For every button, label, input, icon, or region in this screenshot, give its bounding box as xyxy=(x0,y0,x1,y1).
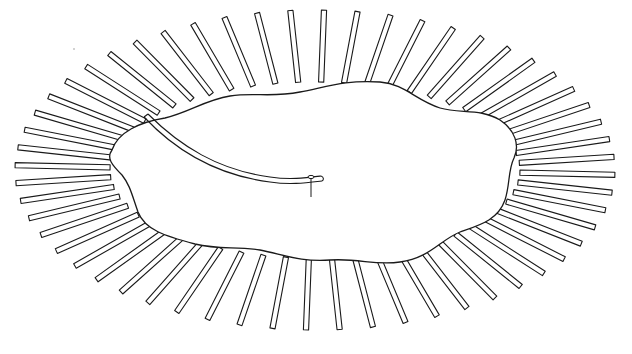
strip xyxy=(255,12,278,84)
strip xyxy=(319,10,327,82)
strip xyxy=(40,203,128,237)
strip xyxy=(436,239,497,300)
strip xyxy=(364,14,393,85)
line-drawing xyxy=(0,0,632,354)
strip xyxy=(237,254,266,325)
strip xyxy=(16,175,111,186)
strip xyxy=(270,257,289,329)
strip xyxy=(501,102,589,136)
strip xyxy=(288,10,301,82)
strip xyxy=(427,35,484,98)
strip xyxy=(133,40,194,101)
strip xyxy=(520,170,615,177)
strip xyxy=(303,258,311,330)
strip xyxy=(146,241,203,304)
strip xyxy=(519,154,614,165)
strip xyxy=(341,11,360,83)
strip xyxy=(352,256,375,328)
strip xyxy=(329,257,342,329)
strip xyxy=(15,163,110,170)
speck xyxy=(73,48,75,50)
